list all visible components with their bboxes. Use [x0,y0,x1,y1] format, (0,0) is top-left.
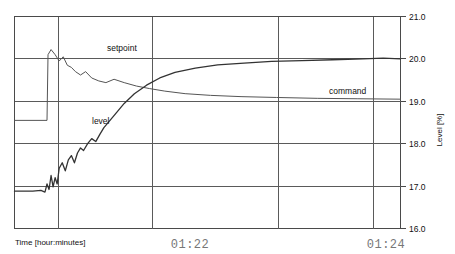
y-axis-title: Level [%] [435,114,444,147]
annotation-command: command [329,86,367,96]
x-axis-title: Time [hour:minutes] [15,238,85,247]
level-control-chart: 21.0 20.0 19.0 18.0 17.0 16.0 Level [%] … [0,0,455,254]
annotation-setpoint: setpoint [107,43,137,53]
x-tick-label-0122: 01:22 [171,238,210,252]
y-tick-label-21: 21.0 [409,12,426,22]
chart-background [0,0,455,254]
x-tick-label-0124: 01:24 [367,238,406,252]
y-tick-label-20: 20.0 [409,54,426,64]
y-tick-label-19: 19.0 [409,97,426,107]
y-tick-label-18: 18.0 [409,139,426,149]
y-tick-label-17: 17.0 [409,182,426,192]
y-tick-label-16: 16.0 [409,224,426,234]
chart-container: 21.0 20.0 19.0 18.0 17.0 16.0 Level [%] … [0,0,455,254]
annotation-level: level [92,116,110,126]
